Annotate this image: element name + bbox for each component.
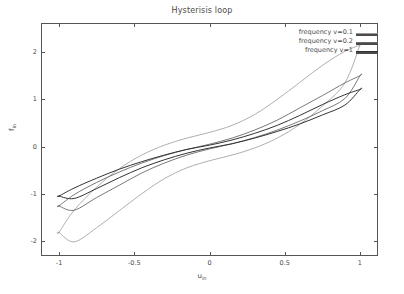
legend-line-sample [356, 30, 378, 36]
x-axis-label: uin [0, 272, 404, 281]
plot-frame [42, 24, 378, 256]
legend-line-sample [356, 39, 378, 45]
chart-legend: frequency v=0.1frequency v=0.2frequency … [287, 28, 378, 55]
legend-item-1: frequency v=0.2 [287, 37, 378, 46]
legend-line-stroke [356, 42, 378, 43]
series-line-2 [57, 88, 362, 199]
x-tick-label: 1 [358, 259, 362, 267]
x-tick-label: -0.5 [128, 259, 141, 267]
x-axis-label-subscript: in [202, 275, 207, 281]
y-tick-label: 2 [21, 48, 37, 56]
series-group [57, 42, 362, 242]
legend-line-sample [356, 48, 378, 54]
legend-label: frequency v=0.1 [299, 28, 356, 37]
series-line-1 [57, 74, 362, 211]
series-line-0 [57, 42, 362, 242]
y-axis-label: fin [8, 124, 17, 131]
x-tick-label: 0 [207, 259, 211, 267]
chart-figure: Hysterisis loop fin uin frequency v=0.1f… [0, 0, 404, 294]
y-tick-label: 1 [21, 95, 37, 103]
y-axis-label-subscript: in [11, 124, 17, 129]
legend-item-2: frequency v=1 [287, 46, 378, 55]
legend-line-stroke [356, 33, 378, 34]
x-tick-label: 0.5 [280, 259, 290, 267]
x-tick-label: -1 [56, 259, 62, 267]
legend-label: frequency v=0.2 [299, 37, 356, 46]
y-tick-label: 0 [21, 143, 37, 151]
legend-label: frequency v=1 [305, 46, 356, 55]
y-tick-label: -2 [21, 237, 37, 245]
legend-item-0: frequency v=0.1 [287, 28, 378, 37]
y-tick-label: -1 [21, 190, 37, 198]
legend-line-stroke [356, 51, 378, 52]
